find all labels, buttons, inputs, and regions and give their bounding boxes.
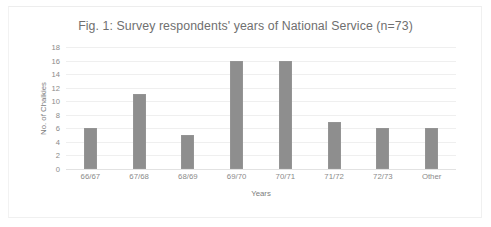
plot-area: 181614121086420 [66,47,456,169]
bar-slot [164,47,213,169]
y-axis-tick-label: 2 [56,151,60,160]
bar-slot [212,47,261,169]
bar[interactable] [181,135,194,169]
y-axis-title-label: No. of Chalkies [39,82,48,135]
bar[interactable] [425,128,438,169]
x-axis-tick-label: 67/68 [115,172,164,181]
x-axis-tick-labels: 66/6767/6868/6969/7070/7171/7272/73Other [66,172,456,181]
y-axis-tick-label: 18 [52,43,60,52]
bar[interactable] [84,128,97,169]
bar-slot [261,47,310,169]
chart-title: Fig. 1: Survey respondents' years of Nat… [0,19,491,33]
bar-slot [359,47,408,169]
bar[interactable] [133,94,146,169]
x-axis-tick-label: 72/73 [359,172,408,181]
bar[interactable] [376,128,389,169]
y-axis-tick-label: 0 [56,165,60,174]
gridline: 0 [66,169,456,170]
x-axis-tick-label: 68/69 [164,172,213,181]
x-axis-tick-label: 69/70 [212,172,261,181]
bar-slot [310,47,359,169]
x-axis-tick-label: 71/72 [310,172,359,181]
y-axis-tick-label: 10 [52,97,60,106]
bar-slot [66,47,115,169]
y-axis-tick-label: 6 [56,124,60,133]
y-axis-tick-label: 14 [52,70,60,79]
y-axis-tick-label: 4 [56,137,60,146]
figure-container: Fig. 1: Survey respondents' years of Nat… [0,0,491,227]
x-axis-title: Years [66,189,456,198]
bar[interactable] [230,61,243,169]
y-axis-tick-label: 8 [56,110,60,119]
bars-layer [66,47,456,169]
x-axis-tick-label: Other [407,172,456,181]
y-axis-tick-label: 16 [52,56,60,65]
bar-slot [407,47,456,169]
y-axis-tick-label: 12 [52,83,60,92]
bar-slot [115,47,164,169]
y-axis-title: No. of Chalkies [36,47,50,169]
x-axis-tick-label: 66/67 [66,172,115,181]
x-axis-tick-label: 70/71 [261,172,310,181]
bar[interactable] [279,61,292,169]
bar[interactable] [328,122,341,169]
